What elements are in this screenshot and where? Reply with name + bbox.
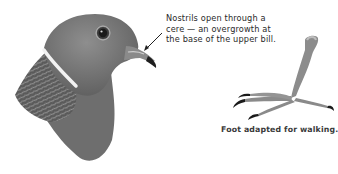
nostril-note-line: the base of the upper bill. xyxy=(166,34,276,45)
pigeon-foot-illustration xyxy=(233,36,334,120)
nostril-note-line: Nostrils open through a xyxy=(166,13,276,24)
pigeon-head-illustration xyxy=(15,14,156,161)
foot-caption: Foot adapted for walking. xyxy=(221,125,338,136)
pointer-arrow-icon xyxy=(144,33,162,51)
nostril-note-line: cere — an overgrowth at xyxy=(166,24,276,35)
nostril-note: Nostrils open through a cere — an overgr… xyxy=(166,13,276,45)
